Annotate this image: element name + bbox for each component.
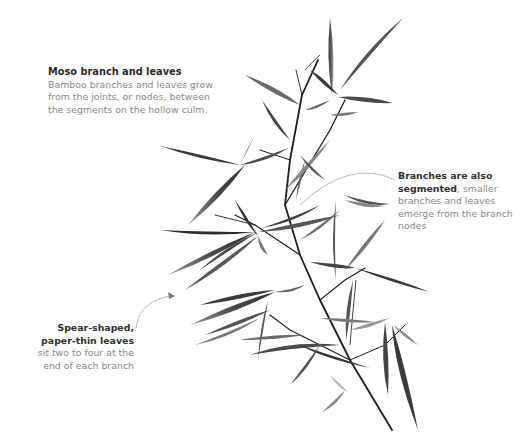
segments-callout-line [300, 173, 395, 205]
leaves-annotation-body: sit two to four at the end of each branc… [38, 347, 134, 371]
callout-lines [136, 173, 395, 328]
caption-body: Bamboo branches and leaves grow from the… [48, 79, 213, 115]
leaves-annotation: Spear-shaped, paper-thin leaves sit two … [30, 322, 134, 372]
leaves-annotation-heading: Spear-shaped, paper-thin leaves [41, 322, 134, 346]
stems [215, 60, 405, 430]
caption-title: Moso branch and leaves [48, 66, 223, 79]
segments-annotation: Branches are also segmented, smaller bra… [398, 170, 519, 233]
leaves-callout-arrowhead [168, 292, 175, 299]
leaves-callout-line [136, 296, 172, 328]
main-caption: Moso branch and leaves Bamboo branches a… [48, 66, 223, 116]
